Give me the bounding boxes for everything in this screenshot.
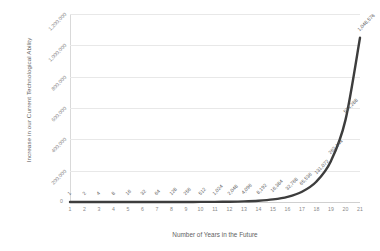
x-tick-label: 11 xyxy=(212,206,217,212)
x-tick-label: 1 xyxy=(69,206,72,212)
x-tick-label: 10 xyxy=(198,206,204,212)
x-tick-label: 15 xyxy=(270,206,276,212)
y-tick-label: 200,000 xyxy=(32,168,69,205)
x-tick-label: 13 xyxy=(241,206,247,212)
x-tick-label: 17 xyxy=(299,206,305,212)
x-tick-label: 7 xyxy=(156,206,159,212)
x-tick-label: 6 xyxy=(141,206,144,212)
x-axis-title: Number of Years in the Future xyxy=(70,231,360,238)
exponential-growth-chart: Increase in our Current Technological Ab… xyxy=(0,0,380,251)
x-tick-label: 4 xyxy=(112,206,115,212)
y-tick-label-0: 0 xyxy=(60,198,63,204)
x-tick-label: 2 xyxy=(83,206,86,212)
x-tick-label: 9 xyxy=(185,206,188,212)
x-tick-label: 21 xyxy=(357,206,363,212)
x-tick-label: 5 xyxy=(127,206,130,212)
x-tick-label: 8 xyxy=(170,206,173,212)
x-tick-label: 18 xyxy=(314,206,320,212)
x-tick-label: 20 xyxy=(343,206,349,212)
x-tick-label: 12 xyxy=(227,206,233,212)
x-tick-label: 19 xyxy=(328,206,334,212)
x-tick-label: 14 xyxy=(256,206,262,212)
x-tick-label: 3 xyxy=(98,206,101,212)
x-tick-label: 16 xyxy=(285,206,291,212)
